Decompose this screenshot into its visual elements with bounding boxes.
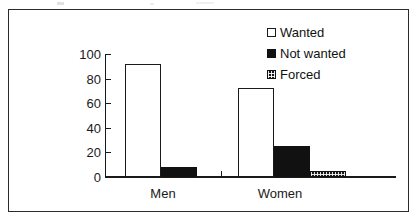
y-axis-tick-label: 0	[69, 171, 101, 184]
bar-chart-plot: 100806040200 Men Women	[9, 10, 410, 213]
x-axis-category-label: Women	[237, 187, 323, 200]
legend-swatch-icon	[267, 70, 276, 79]
bar-men-not-wanted	[161, 167, 197, 177]
y-axis-tick-label: 100	[69, 48, 101, 61]
legend-swatch-icon	[267, 49, 276, 58]
bar-women-wanted	[238, 88, 274, 177]
bars-layer	[105, 54, 396, 177]
y-axis-tick-label: 20	[69, 146, 101, 159]
scan-artifact	[57, 2, 64, 5]
legend-item: Forced	[267, 66, 346, 83]
y-axis-tick	[106, 177, 111, 178]
chart-frame: 100806040200 Men Women WantedNot wantedF…	[8, 9, 409, 212]
y-axis-tick-label: 80	[69, 73, 101, 86]
bar-men-wanted	[125, 64, 161, 177]
legend-swatch-icon	[267, 28, 276, 37]
y-axis-tick-label: 40	[69, 122, 101, 135]
legend-item-label: Wanted	[280, 26, 324, 39]
legend-item-label: Not wanted	[280, 47, 346, 60]
bar-women-forced	[310, 171, 346, 177]
legend-item: Wanted	[267, 24, 346, 41]
bar-women-not-wanted	[274, 146, 310, 177]
chart-legend: WantedNot wantedForced	[267, 24, 346, 87]
scan-artifact	[150, 3, 154, 5]
legend-item: Not wanted	[267, 45, 346, 62]
y-axis-tick-label: 60	[69, 97, 101, 110]
legend-item-label: Forced	[280, 68, 320, 81]
scan-artifact	[196, 2, 214, 4]
x-axis-category-label: Men	[123, 187, 203, 200]
